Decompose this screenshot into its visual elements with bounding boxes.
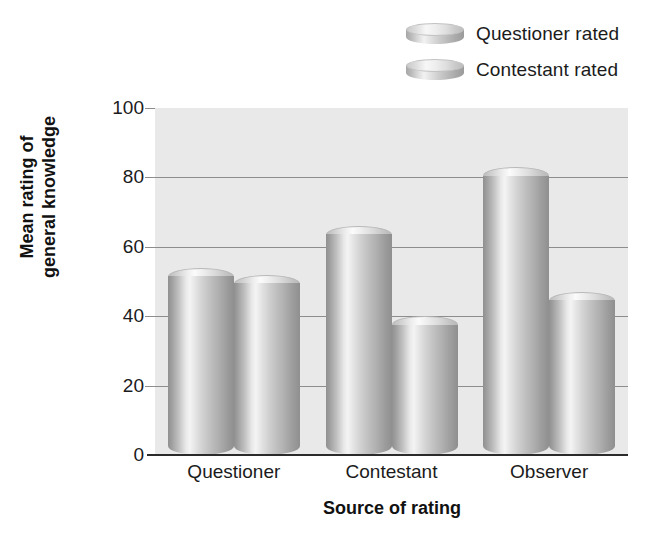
y-axis-title-line1: Mean rating of bbox=[16, 97, 38, 297]
chart-legend: Questioner rated Contestant rated bbox=[406, 16, 656, 88]
bar-contestant-questioner-rated[interactable] bbox=[326, 226, 392, 455]
y-tick-label-100: 100 bbox=[100, 97, 144, 119]
x-axis-ticks: Questioner Contestant Observer bbox=[155, 461, 628, 489]
legend-label-questioner-rated: Questioner rated bbox=[476, 23, 619, 45]
x-tick-label-questioner: Questioner bbox=[187, 461, 280, 483]
tick-mark-80 bbox=[145, 177, 155, 178]
y-tick-label-80: 80 bbox=[100, 166, 144, 188]
plot-area bbox=[155, 108, 628, 455]
legend-label-contestant-rated: Contestant rated bbox=[476, 59, 618, 81]
gridline-80 bbox=[155, 177, 628, 178]
bar-observer-questioner-rated[interactable] bbox=[483, 167, 549, 455]
x-tick-label-observer: Observer bbox=[510, 461, 588, 483]
bar-chart-figure: Questioner rated Contestant rated Mean r… bbox=[0, 0, 664, 535]
tick-mark-100 bbox=[145, 108, 155, 109]
legend-item-contestant-rated: Contestant rated bbox=[406, 52, 656, 88]
tick-mark-60 bbox=[145, 247, 155, 248]
cylinder-swatch-icon bbox=[406, 59, 464, 82]
legend-item-questioner-rated: Questioner rated bbox=[406, 16, 656, 52]
y-tick-label-20: 20 bbox=[100, 375, 144, 397]
bar-observer-contestant-rated[interactable] bbox=[549, 292, 615, 455]
cylinder-swatch-icon bbox=[406, 23, 464, 46]
y-axis-title: Mean rating of general knowledge bbox=[16, 97, 60, 297]
bar-contestant-contestant-rated[interactable] bbox=[392, 316, 458, 455]
tick-mark-40 bbox=[145, 316, 155, 317]
y-tick-label-0: 0 bbox=[100, 444, 144, 466]
bar-questioner-contestant-rated[interactable] bbox=[234, 275, 300, 455]
y-axis-title-line2: general knowledge bbox=[38, 97, 60, 297]
x-axis-title: Source of rating bbox=[155, 498, 629, 519]
y-tick-label-40: 40 bbox=[100, 305, 144, 327]
x-axis-line bbox=[147, 454, 628, 456]
bar-questioner-questioner-rated[interactable] bbox=[168, 268, 234, 455]
tick-mark-20 bbox=[145, 386, 155, 387]
y-tick-label-60: 60 bbox=[100, 236, 144, 258]
x-tick-label-contestant: Contestant bbox=[346, 461, 438, 483]
gridline-60 bbox=[155, 247, 628, 248]
y-axis-ticks: 100 80 60 40 20 0 bbox=[96, 108, 144, 455]
